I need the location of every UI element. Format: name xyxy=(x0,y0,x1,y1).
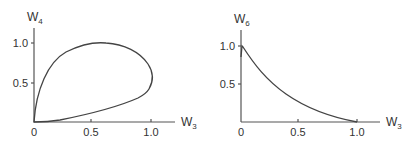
right-chart: 1.0 0.5 0 0.5 1.0 W6 W3 xyxy=(220,12,403,138)
left-y-tick-label-1: 1.0 xyxy=(13,37,28,49)
right-y-tick-label-1: 1.0 xyxy=(220,40,235,52)
left-x-tick-label-05: 0.5 xyxy=(83,126,98,138)
right-y-tick-label-05: 0.5 xyxy=(220,78,235,90)
right-decay-curve xyxy=(241,46,357,122)
left-y-tick-label-05: 0.5 xyxy=(13,77,28,89)
left-chart: 1.0 0.5 0 0.5 1.0 W4 W3 xyxy=(13,10,198,138)
left-y-axis-label: W4 xyxy=(27,10,43,26)
right-x-tick-label-0: 0 xyxy=(238,126,244,138)
left-x-axis-label: W3 xyxy=(181,115,197,131)
left-loop-curve xyxy=(34,43,152,122)
left-x-tick-label-1: 1.0 xyxy=(143,126,158,138)
right-x-tick-label-1: 1.0 xyxy=(349,126,364,138)
right-y-axis-label: W6 xyxy=(234,12,250,28)
left-x-tick-label-0: 0 xyxy=(31,126,37,138)
right-x-axis-label: W3 xyxy=(386,115,402,131)
figure: 1.0 0.5 0 0.5 1.0 W4 W3 1.0 0.5 0 0.5 1.… xyxy=(0,0,409,148)
right-x-tick-label-05: 0.5 xyxy=(290,126,305,138)
